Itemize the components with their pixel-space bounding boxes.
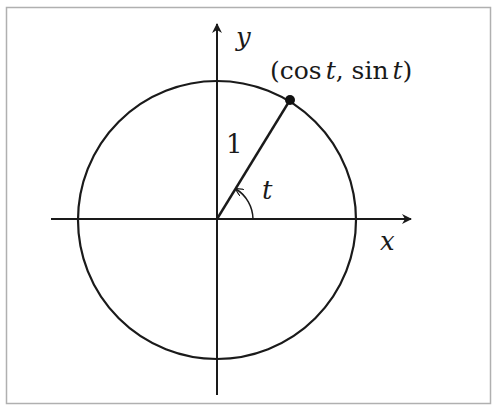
point-label: (cost, sint) xyxy=(270,56,412,85)
y-axis-label: y xyxy=(235,22,251,52)
point-marker xyxy=(285,95,295,105)
unit-circle-diagram: y x 1 t (cost, sint) xyxy=(0,0,496,411)
angle-label: t xyxy=(262,175,273,205)
x-axis-label: x xyxy=(380,226,395,256)
radius-label: 1 xyxy=(226,129,243,159)
angle-arc xyxy=(236,189,253,219)
radius-segment xyxy=(217,100,290,219)
